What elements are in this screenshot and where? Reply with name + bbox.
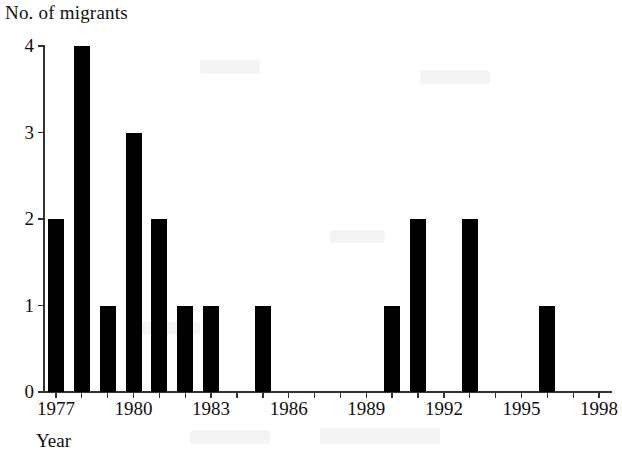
x-axis-tick-label: 1995: [491, 398, 551, 420]
x-axis-tick-label: 1980: [104, 398, 164, 420]
y-axis-tick-label: 3: [0, 123, 34, 142]
x-axis-tick-label: 1986: [259, 398, 319, 420]
x-axis-tick-label: 1977: [26, 398, 86, 420]
page-showthrough-smudge: [320, 428, 440, 444]
y-axis-tick-label: 4: [0, 36, 34, 55]
bar: [126, 133, 142, 393]
bar: [410, 219, 426, 392]
bar: [100, 306, 116, 393]
x-axis-tick-label: 1983: [181, 398, 241, 420]
x-axis-tick-label: 1992: [414, 398, 474, 420]
bar: [384, 306, 400, 393]
bar: [74, 46, 90, 392]
bar: [151, 219, 167, 392]
bar: [177, 306, 193, 393]
y-axis-title: No. of migrants: [5, 2, 128, 24]
bar: [462, 219, 478, 392]
bar: [539, 306, 555, 393]
x-axis-title: Year: [36, 430, 71, 452]
bar: [48, 219, 64, 392]
bar: [255, 306, 271, 393]
plot-area: [43, 46, 612, 392]
y-axis-tick-label: 1: [0, 296, 34, 315]
x-axis-tick-label: 1989: [336, 398, 396, 420]
bar: [203, 306, 219, 393]
page-showthrough-smudge: [190, 430, 270, 444]
y-axis-tick-label: 2: [0, 209, 34, 228]
x-axis-tick-label: 1998: [569, 398, 622, 420]
